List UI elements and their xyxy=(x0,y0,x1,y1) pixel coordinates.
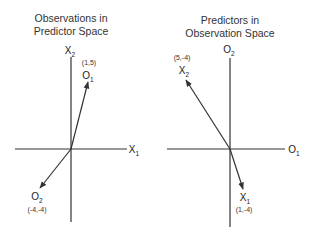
vector-x2-label: X2 xyxy=(179,65,190,78)
vector-x1-arrow xyxy=(230,149,243,189)
vector-x2-arrow xyxy=(186,80,230,149)
vector-x1-label: X1 xyxy=(240,192,251,205)
vector-o1-coord: (1,5) xyxy=(82,59,96,67)
vector-o2-arrow xyxy=(40,149,71,188)
vector-x2-coord: (5,-4) xyxy=(174,54,191,62)
right-y-axis-label: O2 xyxy=(223,44,235,57)
left-title-line-1: Observations in xyxy=(35,12,108,24)
left-x-axis-label: X1 xyxy=(129,144,140,157)
panel-predictors-in-observation-space: Predictors in Observation Space O2 O1 (5… xyxy=(167,14,300,227)
vector-o2-label: O2 xyxy=(31,191,43,204)
vector-o1-label: O1 xyxy=(82,70,94,83)
vector-o1-arrow xyxy=(71,82,88,149)
left-title-line-2: Predictor Space xyxy=(34,25,109,37)
right-x-axis-label: O1 xyxy=(288,144,300,157)
diagram-canvas: Observations in Predictor Space X2 X1 (1… xyxy=(0,0,311,237)
right-title-line-2: Observation Space xyxy=(185,27,274,39)
panel-observations-in-predictor-space: Observations in Predictor Space X2 X1 (1… xyxy=(15,12,140,222)
vector-o2-coord: (-4,-4) xyxy=(27,206,46,214)
left-y-axis-label: X2 xyxy=(65,45,76,58)
vector-x1-coord: (1,-4) xyxy=(236,206,253,214)
right-title-line-1: Predictors in xyxy=(201,14,260,26)
